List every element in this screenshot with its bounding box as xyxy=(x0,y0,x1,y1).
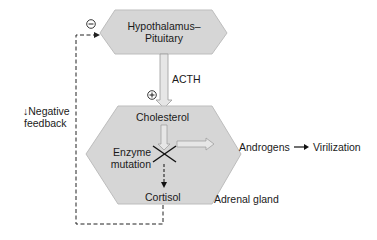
enzyme-label-line1: Enzyme xyxy=(111,146,151,158)
negative-feedback-label: ↓Negative feedback xyxy=(23,105,70,129)
hypothalamus-label-line2: Pituitary xyxy=(118,32,210,44)
adrenal-gland-label: Adrenal gland xyxy=(214,193,279,205)
virilization-label: Virilization xyxy=(313,141,361,153)
cortisol-label: Cortisol xyxy=(145,191,181,203)
negative-feedback-line1: ↓Negative xyxy=(23,105,70,117)
androgens-to-virilization-arrow xyxy=(294,144,309,150)
acth-label: ACTH xyxy=(172,73,201,85)
hypothalamus-label-line1: Hypothalamus– xyxy=(118,20,210,32)
inhibit-sign-icon xyxy=(87,20,96,29)
stimulate-sign-icon xyxy=(148,91,157,100)
acth-arrow xyxy=(156,54,172,108)
enzyme-label-line2: mutation xyxy=(111,158,151,170)
enzyme-mutation-label: Enzyme mutation xyxy=(111,146,151,170)
negative-feedback-line2: feedback xyxy=(23,117,70,129)
hypothalamus-label: Hypothalamus– Pituitary xyxy=(118,20,210,44)
androgens-label: Androgens xyxy=(239,141,290,153)
cholesterol-label: Cholesterol xyxy=(136,111,189,123)
